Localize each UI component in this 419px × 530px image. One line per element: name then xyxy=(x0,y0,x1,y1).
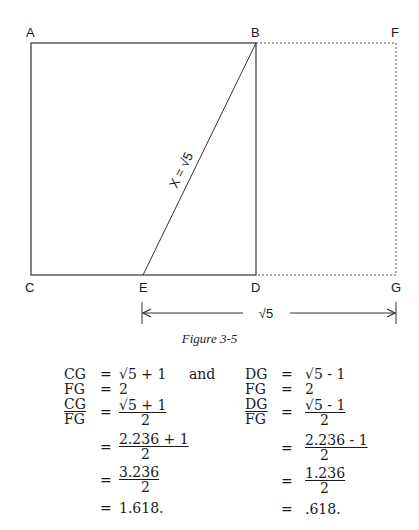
eq-left-r4-num: 2.236 + 1 xyxy=(119,432,189,447)
eq-right-r5-num: 1.236 xyxy=(305,466,345,481)
diagonal-label: X = √5 xyxy=(166,150,196,191)
eq-left-r6-rhs: 1.618. xyxy=(119,501,164,516)
eq-left-r3-num: √5 + 1 xyxy=(119,398,166,413)
eq-right-r6-rhs: .618. xyxy=(305,502,341,517)
eq-right-r3-eq: = xyxy=(281,405,293,420)
point-label-a: A xyxy=(26,25,35,40)
point-label-b: B xyxy=(251,25,260,40)
eq-left-r2-lhs: FG xyxy=(64,382,85,397)
point-label-f: F xyxy=(391,25,399,40)
eq-right-r1-lhs: DG xyxy=(245,367,267,382)
eq-left-r3-eq: = xyxy=(100,405,112,420)
eq-left-r1-lhs: CG xyxy=(64,367,86,382)
dimension-label: √5 xyxy=(259,306,273,321)
eq-right-r5-den: 2 xyxy=(320,481,329,496)
eq-right-r6-eq: = xyxy=(281,502,293,517)
eq-right-r1-eq: = xyxy=(281,367,293,382)
eq-right-r3-num: √5 - 1 xyxy=(305,398,345,413)
eq-left-r4-den: 2 xyxy=(141,447,150,462)
point-label-c: C xyxy=(25,280,34,295)
eq-right-r3-den: 2 xyxy=(320,413,329,428)
diagonal-eb xyxy=(143,43,256,275)
eq-left-r3-den: 2 xyxy=(141,413,150,428)
eq-left-r2-eq: = xyxy=(100,382,112,397)
eq-right-r4-eq: = xyxy=(281,441,293,456)
eq-left-r4-eq: = xyxy=(100,440,112,455)
eq-left-r3-lhs-den: FG xyxy=(64,412,85,427)
eq-right-r2-lhs: FG xyxy=(245,382,266,397)
point-label-g: G xyxy=(391,280,401,295)
eq-right-r5-eq: = xyxy=(281,474,293,489)
eq-left-r5-den: 2 xyxy=(141,480,150,495)
eq-right-r4-num: 2.236 - 1 xyxy=(305,433,368,448)
figure-caption: Figure 3-5 xyxy=(0,331,419,347)
eq-left-r6-eq: = xyxy=(100,501,112,516)
eq-right-r4-den: 2 xyxy=(320,448,329,463)
eq-left-r5-eq: = xyxy=(100,473,112,488)
eq-left-r1-rhs: √5 + 1 xyxy=(119,367,166,382)
eq-right-r2-eq: = xyxy=(281,382,293,397)
eq-right-r2-rhs: 2 xyxy=(305,382,314,397)
point-label-e: E xyxy=(139,280,148,295)
dotted-rectangle-bfgd xyxy=(256,43,396,275)
eq-right-r1-rhs: √5 - 1 xyxy=(305,367,345,382)
golden-ratio-figure: X = √5 A B F C E D G √5 xyxy=(0,0,419,350)
eq-left-r2-rhs: 2 xyxy=(119,382,128,397)
conjunction-and: and xyxy=(189,367,215,382)
eq-left-r3-lhs-num: CG xyxy=(64,397,86,412)
eq-right-r3-lhs-num: DG xyxy=(245,397,267,412)
eq-right-r3-lhs-den: FG xyxy=(245,412,266,427)
eq-left-r1-eq: = xyxy=(100,367,112,382)
square-abdc xyxy=(31,43,256,275)
point-label-d: D xyxy=(251,280,260,295)
eq-left-r5-num: 3.236 xyxy=(119,465,159,480)
